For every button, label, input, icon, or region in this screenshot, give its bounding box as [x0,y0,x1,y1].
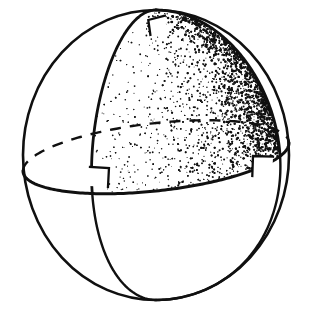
right-angle-marker-right-vertex [252,156,273,177]
right-angle-marker-left-vertex [89,167,109,187]
sphere-diagram-figure: Spherical octant on a sphere Wireframe s… [0,0,312,310]
figure-background [0,0,312,310]
sphere-diagram-svg [0,0,312,310]
right-angle-marker-right-vertex-backing [252,156,273,177]
right-angle-marker-pole [148,16,167,35]
right-angle-marker-left-vertex-backing [89,167,109,187]
